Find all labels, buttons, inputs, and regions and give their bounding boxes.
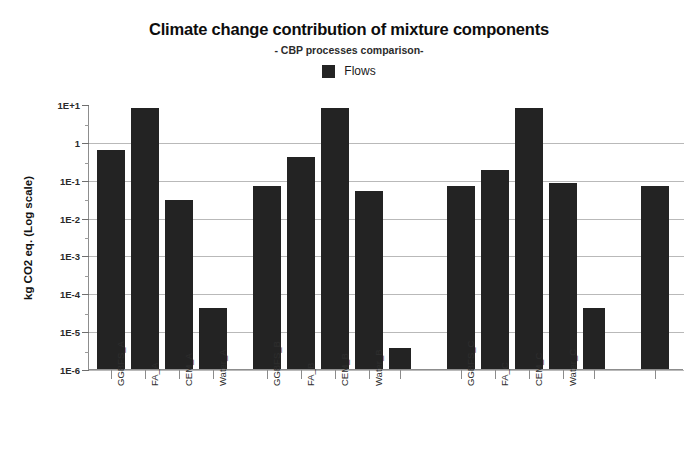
y-axis-tick-label: 1E-6	[60, 365, 80, 376]
y-axis-tick	[82, 332, 89, 333]
x-axis-label: Water_B	[373, 349, 384, 386]
y-axis-minor-tick	[85, 200, 89, 201]
y-axis-minor-tick	[85, 314, 89, 315]
x-axis-label: FA_A	[149, 363, 160, 386]
y-axis-tick-label: 1E+1	[58, 100, 80, 111]
y-axis-minor-tick	[85, 238, 89, 239]
x-axis-label: FA_C	[499, 362, 510, 386]
y-axis-title: kg CO2 eq. (Log scale)	[18, 105, 38, 370]
bar[interactable]	[355, 191, 383, 369]
x-axis-label: Water_A	[217, 349, 228, 386]
y-axis-minor-tick	[85, 352, 89, 353]
x-axis-tick	[111, 370, 112, 379]
y-axis-tick-label: 1E-2	[60, 213, 80, 224]
legend-label-flows: Flows	[344, 64, 375, 78]
gridline	[89, 181, 684, 182]
y-axis-tick	[82, 370, 89, 371]
chart-title: Climate change contribution of mixture c…	[0, 20, 698, 39]
y-axis-tick	[82, 294, 89, 295]
gridline	[89, 143, 684, 144]
x-axis-label: GGBFS_B	[271, 341, 282, 386]
x-axis-tick	[301, 370, 302, 379]
bar[interactable]	[515, 108, 543, 369]
bar[interactable]	[641, 186, 669, 369]
y-axis-tick	[82, 143, 89, 144]
x-axis-label: CEM_C	[533, 353, 544, 386]
bar[interactable]	[389, 348, 411, 369]
x-axis-tick	[461, 370, 462, 379]
x-axis-label: FA_B	[305, 363, 316, 386]
y-axis-minor-tick	[85, 125, 89, 126]
y-axis-minor-tick	[85, 163, 89, 164]
x-axis-label: GGBFS_A	[115, 341, 126, 386]
x-axis-tick	[400, 370, 401, 379]
x-axis-tick	[145, 370, 146, 379]
bar[interactable]	[583, 308, 605, 369]
x-axis-tick	[213, 370, 214, 379]
y-axis-title-text: kg CO2 eq. (Log scale)	[22, 176, 34, 300]
y-axis-tick-label: 1E-3	[60, 251, 80, 262]
x-axis-tick	[495, 370, 496, 379]
x-axis-tick	[563, 370, 564, 379]
x-axis-tick	[655, 370, 656, 379]
y-axis-tick	[82, 219, 89, 220]
bar[interactable]	[97, 150, 125, 369]
y-axis-tick-label: 1	[75, 137, 80, 148]
chart-subtitle: - CBP processes comparison-	[0, 44, 698, 56]
bar[interactable]	[481, 170, 509, 369]
x-axis-label: GGBFS_C	[465, 341, 476, 386]
x-axis-label: CEM_A	[183, 353, 194, 386]
y-axis-tick	[82, 256, 89, 257]
bar[interactable]	[165, 200, 193, 369]
x-axis-tick	[594, 370, 595, 379]
plot-area: 1E+111E-11E-21E-31E-41E-51E-6GGBFS_AFA_A…	[88, 105, 683, 370]
y-axis-tick	[82, 181, 89, 182]
chart-container: Climate change contribution of mixture c…	[0, 0, 698, 476]
y-axis-minor-tick	[85, 276, 89, 277]
x-axis-tick	[369, 370, 370, 379]
y-axis-tick-label: 1E-5	[60, 327, 80, 338]
bar[interactable]	[131, 108, 159, 369]
bar[interactable]	[549, 183, 577, 369]
x-axis-tick	[529, 370, 530, 379]
legend-swatch-flows	[322, 65, 335, 78]
bar[interactable]	[287, 157, 315, 369]
x-axis-tick	[335, 370, 336, 379]
x-axis-tick	[179, 370, 180, 379]
x-axis-label: CEM_B	[339, 353, 350, 386]
x-axis-label: Water_C	[567, 349, 578, 386]
x-axis-tick	[267, 370, 268, 379]
y-axis-tick-label: 1E-1	[60, 175, 80, 186]
y-axis-tick-label: 1E-4	[60, 289, 80, 300]
y-axis-tick	[82, 105, 89, 106]
bar[interactable]	[321, 108, 349, 369]
chart-legend: Flows	[0, 64, 698, 78]
